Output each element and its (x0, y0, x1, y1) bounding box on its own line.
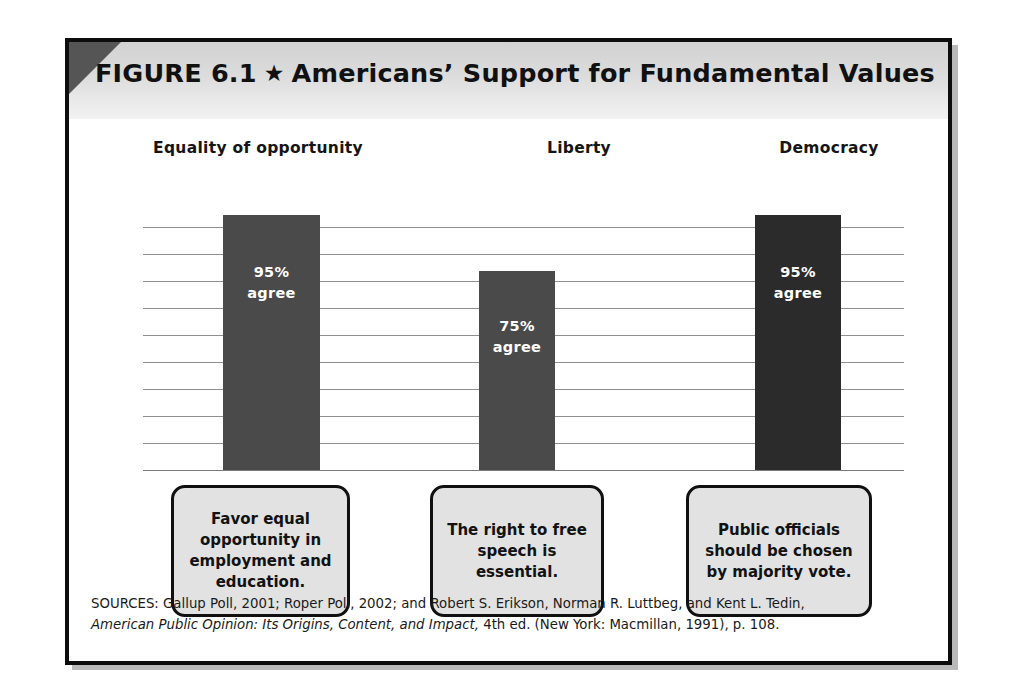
bar-value-label-democracy: 95% (755, 262, 841, 283)
figure-title-text: Americans’ Support for Fundamental Value… (291, 58, 934, 88)
bar-value-sublabel-liberty: agree (479, 337, 555, 358)
figure-title: FIGURE 6.1★Americans’ Support for Fundam… (95, 58, 935, 88)
figure-number: FIGURE 6.1 (95, 58, 257, 88)
bar-liberty: 75% agree (479, 271, 555, 470)
bar-value-label-equality: 95% (223, 262, 320, 283)
figure-page: FIGURE 6.1★Americans’ Support for Fundam… (0, 0, 1010, 697)
bar-equality-of-opportunity: 95% agree (223, 215, 320, 470)
star-icon: ★ (257, 60, 292, 86)
gridline-baseline (143, 470, 904, 471)
bar-democracy: 95% agree (755, 215, 841, 470)
sources-citation-rest: 4th ed. (New York: Macmillan, 1991), p. … (479, 617, 779, 632)
figure-frame: FIGURE 6.1★Americans’ Support for Fundam… (65, 38, 952, 665)
bar-value-label-liberty: 75% (479, 316, 555, 337)
bar-value-sublabel-equality: agree (223, 283, 320, 304)
bar-value-sublabel-democracy: agree (755, 283, 841, 304)
sources-note: SOURCES: Gallup Poll, 2001; Roper Poll, … (91, 593, 931, 635)
chart-area: Equality of opportunity Liberty Democrac… (69, 119, 948, 665)
sources-line-2: American Public Opinion: Its Origins, Co… (91, 614, 931, 635)
figure-title-band: FIGURE 6.1★Americans’ Support for Fundam… (69, 42, 948, 119)
sources-title-italic: American Public Opinion: Its Origins, Co… (91, 617, 479, 632)
sources-line-1: SOURCES: Gallup Poll, 2001; Roper Poll, … (91, 593, 931, 614)
